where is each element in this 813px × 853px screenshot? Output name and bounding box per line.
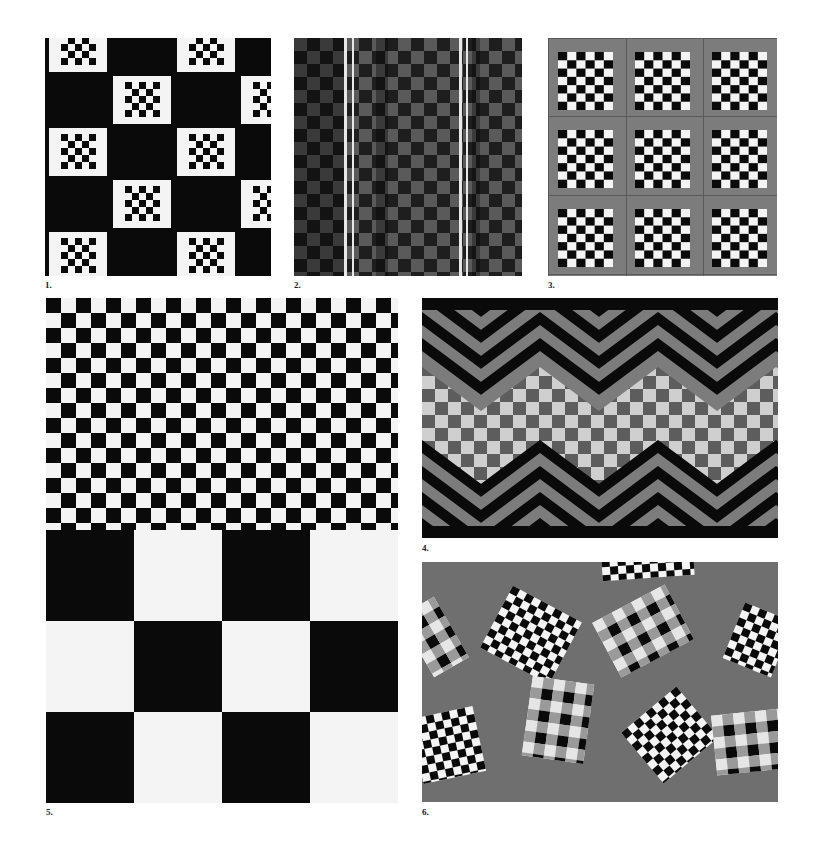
figure-5-label: 5. <box>46 807 53 817</box>
figure-1-label: 1. <box>45 280 52 290</box>
figure-2-image <box>294 38 522 276</box>
figure-6-label: 6. <box>422 807 429 817</box>
figure-6-image <box>422 562 778 802</box>
figure-4-image <box>422 298 778 538</box>
figure-4-label: 4. <box>422 543 429 553</box>
figure-1-image <box>45 38 271 276</box>
figure-3-label: 3. <box>548 280 555 290</box>
figure-2-label: 2. <box>294 280 301 290</box>
figure-5-image <box>46 298 398 803</box>
figure-3-image <box>548 38 777 276</box>
